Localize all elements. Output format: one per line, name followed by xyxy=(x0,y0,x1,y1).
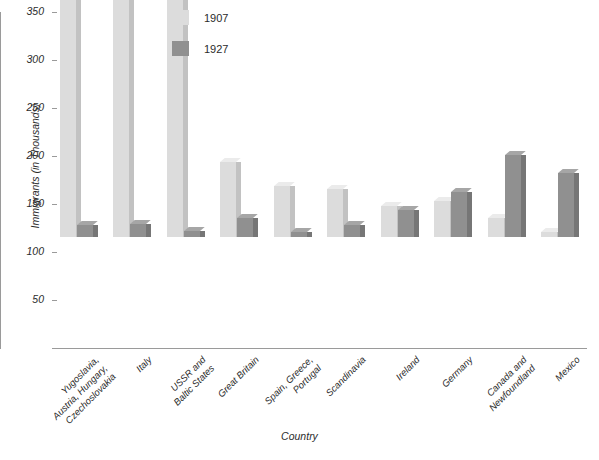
bar-1927-5[interactable] xyxy=(344,225,360,237)
bar-face xyxy=(60,0,76,237)
bar-group xyxy=(274,236,312,237)
bar-face xyxy=(77,225,93,237)
bar-face xyxy=(130,224,146,237)
legend-swatch-1907 xyxy=(172,10,189,25)
legend-item: 1907 xyxy=(172,10,292,25)
y-axis: 50100150200250300350 xyxy=(0,0,52,460)
bar-chart: Immigrants (in Thousands) 50100150200250… xyxy=(0,0,599,460)
bar-1927-2[interactable] xyxy=(184,231,200,237)
bar-face xyxy=(291,232,307,237)
bar-group xyxy=(381,236,419,237)
bar-side xyxy=(574,173,579,237)
legend-swatch-1927 xyxy=(172,41,189,56)
legend-label-1907: 1907 xyxy=(204,12,228,24)
bar-side xyxy=(521,155,526,237)
bar-face xyxy=(344,225,360,237)
bar-group xyxy=(60,236,98,237)
bar-face xyxy=(381,206,397,237)
bar-1907-4[interactable] xyxy=(274,186,290,237)
bar-side xyxy=(467,192,472,237)
bar-side xyxy=(76,0,81,237)
y-axis-line xyxy=(0,12,1,349)
y-axis-tick-label: 300 xyxy=(26,54,44,65)
bar-group xyxy=(327,236,365,237)
bar-1907-9[interactable] xyxy=(541,232,557,237)
bar-group xyxy=(434,236,472,237)
bar-side xyxy=(307,232,312,237)
legend-label-1927: 1927 xyxy=(204,43,228,55)
bar-face xyxy=(274,186,290,237)
legend: 1907 1927 xyxy=(172,10,292,72)
bar-1907-7[interactable] xyxy=(434,201,450,237)
bar-face xyxy=(434,201,450,237)
bar-group xyxy=(167,236,205,237)
bar-1907-0[interactable] xyxy=(60,0,76,237)
plot-area xyxy=(52,12,587,349)
bar-1927-1[interactable] xyxy=(130,224,146,237)
bar-group xyxy=(113,236,151,237)
y-axis-tick-label: 350 xyxy=(26,6,44,17)
bar-face xyxy=(237,218,253,237)
bar-1927-7[interactable] xyxy=(451,192,467,237)
bar-1907-3[interactable] xyxy=(220,162,236,237)
bar-face xyxy=(451,192,467,237)
bar-face xyxy=(220,162,236,237)
bar-1927-6[interactable] xyxy=(398,210,414,237)
y-axis-tick-label: 200 xyxy=(26,150,44,161)
bar-side xyxy=(253,218,258,237)
bar-group xyxy=(488,236,526,237)
bar-group xyxy=(541,236,579,237)
bar-face xyxy=(558,173,574,237)
y-axis-tick-label: 50 xyxy=(32,294,44,305)
bar-1927-0[interactable] xyxy=(77,225,93,237)
legend-item: 1927 xyxy=(172,41,292,56)
y-axis-tick-label: 100 xyxy=(26,246,44,257)
bar-face xyxy=(113,0,129,237)
bar-face xyxy=(505,155,521,237)
bar-face xyxy=(327,189,343,237)
bar-side xyxy=(360,225,365,237)
bar-group xyxy=(220,236,258,237)
bar-face xyxy=(541,232,557,237)
bar-1927-4[interactable] xyxy=(291,232,307,237)
bar-1907-6[interactable] xyxy=(381,206,397,237)
y-axis-tick-label: 250 xyxy=(26,102,44,113)
bar-1927-9[interactable] xyxy=(558,173,574,237)
bar-1907-1[interactable] xyxy=(113,0,129,237)
bar-side xyxy=(414,210,419,237)
bar-1907-5[interactable] xyxy=(327,189,343,237)
bar-1927-8[interactable] xyxy=(505,155,521,237)
bar-face xyxy=(398,210,414,237)
bar-side xyxy=(93,225,98,237)
bar-side xyxy=(146,224,151,237)
bar-face xyxy=(488,218,504,237)
y-axis-tick-label: 150 xyxy=(26,198,44,209)
bar-1907-8[interactable] xyxy=(488,218,504,237)
bar-side xyxy=(200,231,205,237)
bar-side xyxy=(129,0,134,237)
bar-1927-3[interactable] xyxy=(237,218,253,237)
x-axis-title: Country xyxy=(0,430,599,442)
bar-face xyxy=(184,231,200,237)
